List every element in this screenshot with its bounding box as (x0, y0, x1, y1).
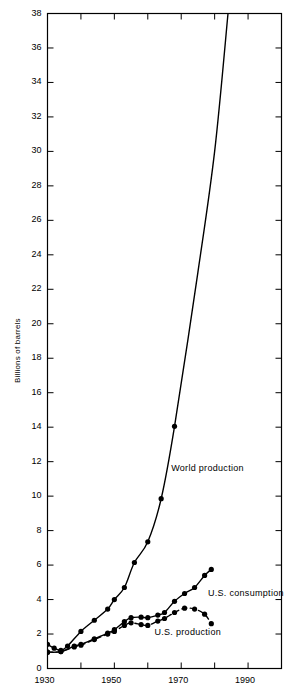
y-tick-label: 10 (22, 490, 42, 500)
y-tick-label: 24 (22, 249, 42, 259)
data-point (78, 629, 83, 634)
y-tick-label: 32 (22, 111, 42, 121)
axis-ticks (48, 14, 282, 669)
y-tick-label: 0 (22, 663, 42, 673)
data-point (105, 631, 110, 636)
data-point (172, 424, 177, 429)
y-tick-label: 18 (22, 352, 42, 362)
data-point (92, 637, 97, 642)
data-point (182, 606, 187, 611)
y-tick-label: 34 (22, 76, 42, 86)
data-point (145, 539, 150, 544)
data-point (159, 496, 164, 501)
y-tick-label: 14 (22, 421, 42, 431)
y-tick-label: 6 (22, 559, 42, 569)
data-point (52, 646, 57, 651)
data-point (58, 649, 63, 654)
series-label-world-production: World production (171, 463, 244, 473)
data-point (112, 597, 117, 602)
data-point (72, 644, 77, 649)
data-point (45, 642, 50, 647)
data-point (128, 615, 133, 620)
data-point (92, 618, 97, 623)
data-point (122, 585, 127, 590)
y-tick-label: 36 (22, 42, 42, 52)
data-point (202, 573, 207, 578)
y-axis-title: Billions of barrels (13, 318, 22, 383)
data-point (139, 615, 144, 620)
y-tick-label: 20 (22, 318, 42, 328)
data-point (78, 643, 83, 648)
data-point (45, 650, 50, 655)
data-point (162, 616, 167, 621)
y-tick-label: 8 (22, 525, 42, 535)
x-tick-label: 1970 (168, 675, 188, 685)
y-tick-label: 22 (22, 283, 42, 293)
data-point (172, 599, 177, 604)
data-point (209, 621, 214, 626)
plot-border (48, 14, 282, 669)
y-tick-label: 28 (22, 180, 42, 190)
y-tick-label: 16 (22, 387, 42, 397)
data-point (132, 560, 137, 565)
data-point (192, 585, 197, 590)
data-point (155, 619, 160, 624)
y-tick-label: 38 (22, 8, 42, 18)
data-point (145, 623, 150, 628)
series-u-s-consumption (45, 567, 214, 655)
data-point (145, 615, 150, 620)
data-point (155, 612, 160, 617)
y-tick-label: 4 (22, 594, 42, 604)
x-tick-label: 1990 (235, 675, 255, 685)
data-point (172, 610, 177, 615)
series-line (48, 14, 229, 651)
data-point (122, 623, 127, 628)
x-tick-label: 1930 (35, 675, 55, 685)
data-point (209, 567, 214, 572)
y-tick-label: 30 (22, 145, 42, 155)
series-label-u-s-consumption: U.S. consumption (208, 588, 284, 598)
data-point (105, 606, 110, 611)
plot-frame (48, 14, 282, 669)
oil-production-chart: Billions of barrels 1930195019701990 024… (0, 0, 297, 695)
x-tick-label: 1950 (101, 675, 121, 685)
data-point (202, 612, 207, 617)
y-tick-label: 12 (22, 456, 42, 466)
data-point (192, 606, 197, 611)
series-label-u-s-production: U.S. production (154, 627, 221, 637)
y-tick-label: 2 (22, 628, 42, 638)
data-point (182, 591, 187, 596)
y-tick-label: 26 (22, 214, 42, 224)
data-point (112, 629, 117, 634)
data-point (139, 622, 144, 627)
series-line (48, 569, 212, 652)
series-world-production (45, 14, 228, 654)
data-point (128, 620, 133, 625)
data-series-group (45, 14, 228, 655)
data-point (162, 610, 167, 615)
